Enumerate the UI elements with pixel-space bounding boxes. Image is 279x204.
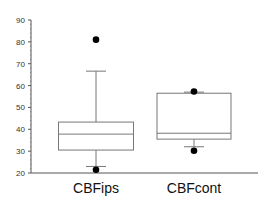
outlier-dot (191, 147, 198, 154)
category-label: CBFips (73, 180, 119, 196)
y-tick-label: 60 (16, 82, 25, 91)
boxes: CBFipsCBFcont (59, 36, 232, 196)
iqr-box (157, 93, 231, 139)
y-tick-label: 40 (16, 125, 25, 134)
y-tick-label: 90 (16, 16, 25, 25)
outlier-dot (191, 88, 198, 95)
y-axis: 2030405060708090 (16, 16, 31, 178)
outlier-dot (93, 166, 100, 173)
box-plot-chart: 2030405060708090 CBFipsCBFcont (0, 0, 279, 204)
outlier-dot (93, 36, 100, 43)
box-cbfips: CBFips (59, 36, 134, 196)
y-tick-label: 70 (16, 60, 25, 69)
y-tick-label: 50 (16, 103, 25, 112)
category-label: CBFcont (167, 180, 222, 196)
y-tick-label: 30 (16, 147, 25, 156)
y-tick-label: 20 (16, 169, 25, 178)
iqr-box (59, 122, 134, 150)
box-cbfcont: CBFcont (157, 88, 231, 196)
y-tick-label: 80 (16, 38, 25, 47)
